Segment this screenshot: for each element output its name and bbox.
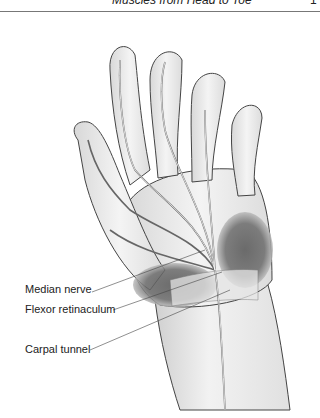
running-header: Muscles from Head to Toe 1 [0,0,320,11]
running-title: Muscles from Head to Toe [112,0,252,7]
label-median-nerve: Median nerve [25,283,92,295]
label-flexor-retinaculum: Flexor retinaculum [25,303,115,315]
hand-illustration [0,12,320,418]
label-carpal-tunnel: Carpal tunnel [25,343,90,355]
page-number: 1 [310,0,317,7]
